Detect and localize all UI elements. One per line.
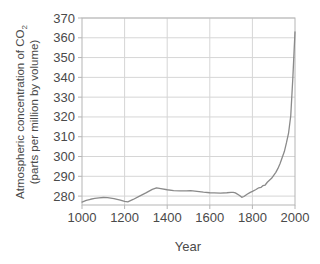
y-axis-title-line2: (parts per million by volume) xyxy=(28,40,40,185)
y-tick-label: 360 xyxy=(53,30,75,45)
co2-concentration-chart: 100012001400160018002000 280290300310320… xyxy=(0,0,320,264)
y-tick-label: 350 xyxy=(53,50,75,65)
x-tick-label: 1000 xyxy=(68,210,97,225)
y-tick-label: 330 xyxy=(53,90,75,105)
x-tick-label: 1600 xyxy=(195,210,224,225)
y-tick-label: 280 xyxy=(53,189,75,204)
y-tick-label: 290 xyxy=(53,169,75,184)
y-tick-label: 310 xyxy=(53,129,75,144)
chart-canvas: 100012001400160018002000 280290300310320… xyxy=(0,0,320,264)
y-tick-label: 370 xyxy=(53,11,75,26)
x-axis-title: Year xyxy=(175,239,202,254)
x-tick-label: 1800 xyxy=(238,210,267,225)
x-tick-label: 2000 xyxy=(281,210,310,225)
x-tick-label: 1400 xyxy=(153,210,182,225)
y-tick-label: 320 xyxy=(53,109,75,124)
y-tick-label: 340 xyxy=(53,70,75,85)
y-tick-label: 300 xyxy=(53,149,75,164)
x-tick-label: 1200 xyxy=(110,210,139,225)
